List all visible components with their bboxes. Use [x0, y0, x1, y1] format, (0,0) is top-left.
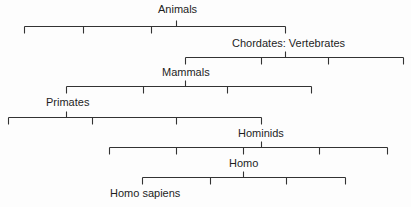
node-hominids: Hominids [238, 127, 284, 139]
node-chordates-vertebrates: Chordates: Vertebrates [232, 37, 345, 49]
taxonomy-diagram: Animals Chordates: Vertebrates Mammals P… [0, 0, 411, 207]
node-animals: Animals [158, 3, 197, 15]
node-primates: Primates [46, 96, 89, 108]
node-homo: Homo [229, 157, 258, 169]
node-mammals: Mammals [162, 66, 210, 78]
node-homo-sapiens: Homo sapiens [110, 187, 180, 199]
